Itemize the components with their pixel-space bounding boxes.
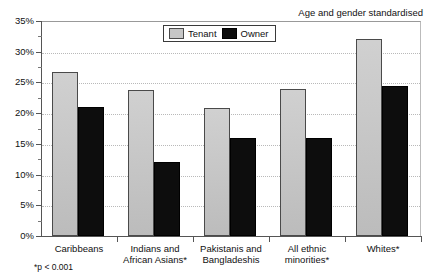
- legend-label-owner: Owner: [241, 28, 269, 39]
- y-axis-tick-major: [36, 82, 42, 83]
- x-axis-end-tick: [421, 236, 422, 242]
- legend-swatch-tenant-icon: [169, 28, 184, 39]
- legend-item-owner: Owner: [222, 28, 269, 39]
- bar-tenant: [52, 72, 78, 236]
- y-axis-tick-label: 35%: [0, 15, 34, 26]
- y-axis-tick-label: 0%: [0, 230, 34, 241]
- y-axis-tick-major: [36, 205, 42, 206]
- y-axis-tick-minor: [38, 129, 42, 130]
- x-axis-group-separator: [117, 236, 118, 242]
- bar-tenant: [128, 90, 154, 236]
- y-axis-tick-label: 5%: [0, 199, 34, 210]
- x-axis-group-separator: [345, 236, 346, 242]
- y-axis-tick-label: 15%: [0, 138, 34, 149]
- x-axis-group-separator: [193, 236, 194, 242]
- bar-owner: [230, 138, 256, 236]
- y-axis-tick-minor: [38, 190, 42, 191]
- y-axis-tick-label: 25%: [0, 76, 34, 87]
- x-axis-category-label: Whites*: [345, 243, 421, 254]
- legend-label-tenant: Tenant: [188, 28, 217, 39]
- legend-item-tenant: Tenant: [169, 28, 217, 39]
- x-axis-category-label: Indians and African Asians*: [117, 243, 193, 265]
- y-axis-tick-major: [36, 144, 42, 145]
- bar-tenant: [280, 89, 306, 236]
- bar-owner: [78, 107, 104, 236]
- x-axis-group-separator: [269, 236, 270, 242]
- bar-owner: [382, 86, 408, 237]
- y-axis-tick-label: 20%: [0, 107, 34, 118]
- y-axis-tick-minor: [38, 221, 42, 222]
- chart-footnote: *p < 0.001: [34, 262, 73, 272]
- bar-owner: [306, 138, 332, 236]
- x-axis-category-label: Caribbeans: [41, 243, 117, 254]
- y-axis-tick-major: [36, 21, 42, 22]
- chart-annotation: Age and gender standardised: [298, 7, 423, 18]
- y-axis-tick-label: 10%: [0, 169, 34, 180]
- bar-owner: [154, 162, 180, 236]
- x-axis-category-label: All ethnic minorities*: [269, 243, 345, 265]
- x-axis-category-label: Pakistanis and Bangladeshis: [193, 243, 269, 265]
- chart-legend: Tenant Owner: [163, 25, 276, 42]
- bar-tenant: [356, 39, 382, 236]
- y-axis-tick-minor: [38, 67, 42, 68]
- bar-tenant: [204, 108, 230, 236]
- top-cutoff-artifact: [0, 0, 427, 7]
- y-axis-tick-major: [36, 52, 42, 53]
- plot-area: [41, 21, 421, 236]
- legend-swatch-owner-icon: [222, 28, 237, 39]
- y-axis-tick-minor: [38, 98, 42, 99]
- x-axis-line: [41, 236, 422, 237]
- y-axis-tick-minor: [38, 159, 42, 160]
- y-axis-tick-major: [36, 113, 42, 114]
- y-axis-tick-label: 30%: [0, 46, 34, 57]
- y-axis-tick-major: [36, 236, 42, 237]
- y-axis-tick-minor: [38, 36, 42, 37]
- y-axis-tick-major: [36, 175, 42, 176]
